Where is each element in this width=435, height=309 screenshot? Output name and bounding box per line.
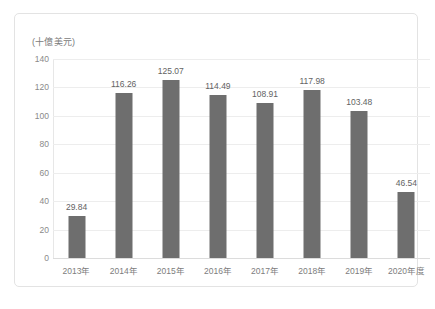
y-axis-tick-label: 60 [15,168,49,178]
y-axis-tick-label: 0 [15,253,49,263]
bar-slot: 108.91 [242,59,289,258]
x-axis-tick-label: 2016年 [194,264,241,276]
plot-area: 29.84116.26125.07114.49108.91117.98103.4… [53,59,430,258]
x-axis-tick-label: 2020年度 [383,264,430,276]
x-axis-tick-label: 2017年 [242,264,289,276]
bar[interactable] [351,111,368,258]
y-axis-tick-label: 120 [15,82,49,92]
y-axis-tick-labels: 020406080100120140 [15,59,49,258]
y-axis-tick-label: 20 [15,225,49,235]
bar[interactable] [68,216,85,258]
x-axis-tick-labels: 2013年2014年2015年2016年2017年2018年2019年2020年… [53,264,430,280]
bar-value-label: 103.48 [346,97,372,107]
x-axis-tick-label: 2014年 [100,264,147,276]
bar-value-label: 29.84 [66,202,87,212]
bar[interactable] [209,95,226,258]
bar-value-label: 117.98 [299,76,324,86]
bar[interactable] [257,103,274,258]
x-axis-tick-label: 2019年 [336,264,383,276]
bar-value-label: 116.26 [111,79,136,89]
bar[interactable] [115,93,132,258]
bar[interactable] [398,192,415,258]
bar-slot: 116.26 [100,59,147,258]
y-axis-tick-label: 80 [15,139,49,149]
y-axis-unit-caption: (十億美元) [32,35,75,48]
x-axis-tick-label: 2015年 [147,264,194,276]
bar[interactable] [304,90,321,258]
bar-slot: 114.49 [194,59,241,258]
x-axis-tick-label: 2018年 [289,264,336,276]
gridline [53,258,430,259]
bar-value-label: 114.49 [205,81,230,91]
y-axis-tick-label: 40 [15,196,49,206]
x-axis-tick-label: 2013年 [53,264,100,276]
bar[interactable] [162,80,179,258]
bar-slot: 103.48 [336,59,383,258]
bar-slot: 125.07 [147,59,194,258]
bar-value-label: 46.54 [396,178,417,188]
bar-value-label: 108.91 [252,89,278,99]
y-axis-tick-label: 140 [15,54,49,64]
bar-slot: 29.84 [53,59,100,258]
bar-slot: 117.98 [289,59,336,258]
bar-value-label: 125.07 [158,66,184,76]
chart-container: (十億美元) 020406080100120140 29.84116.26125… [14,13,418,287]
bar-slot: 46.54 [383,59,430,258]
y-axis-tick-label: 100 [15,111,49,121]
